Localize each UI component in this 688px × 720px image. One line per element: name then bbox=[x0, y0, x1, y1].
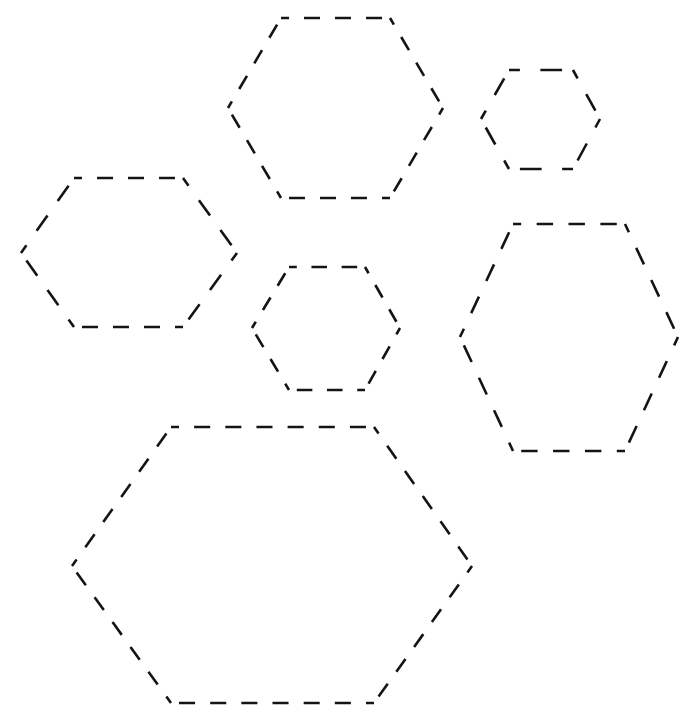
hexagon-diagram-canvas bbox=[0, 0, 688, 720]
background bbox=[0, 0, 688, 720]
